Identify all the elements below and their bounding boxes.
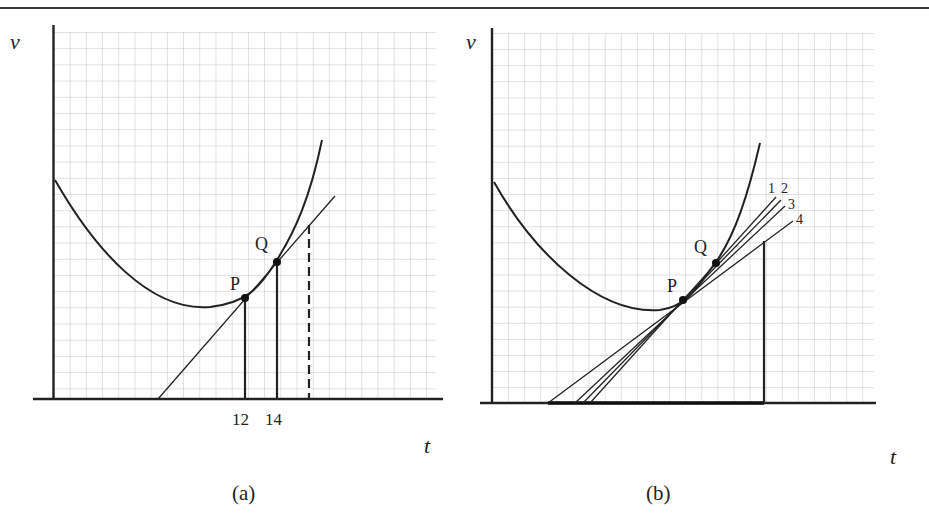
point-label-q-a: Q — [255, 234, 268, 254]
point-p-b — [679, 296, 687, 304]
line-label-1: 1 — [768, 181, 775, 196]
point-q-b — [712, 259, 720, 267]
point-label-p-a: P — [230, 274, 240, 294]
point-label-q-b: Q — [694, 237, 707, 257]
caption-a: (a) — [232, 481, 255, 506]
x-axis-label-b: t — [890, 444, 897, 469]
tick-label-14: 14 — [265, 410, 283, 429]
figure-canvas: v t P Q 12 14 v t P Q 1 2 3 4 — [0, 0, 929, 521]
point-p-a — [241, 294, 249, 302]
panel-b: v t P Q 1 2 3 4 — [466, 28, 897, 469]
tick-label-12: 12 — [232, 410, 249, 429]
y-axis-label-b: v — [466, 29, 476, 54]
caption-b: (b) — [646, 481, 671, 506]
line-label-3: 3 — [788, 197, 795, 212]
line-label-4: 4 — [796, 212, 803, 227]
panel-a: v t P Q 12 14 — [10, 25, 443, 458]
line-label-2: 2 — [781, 181, 788, 196]
point-label-p-b: P — [667, 276, 677, 296]
x-axis-label-a: t — [424, 433, 431, 458]
grid-b — [492, 33, 874, 402]
y-axis-label-a: v — [10, 29, 20, 54]
point-q-a — [273, 258, 281, 266]
